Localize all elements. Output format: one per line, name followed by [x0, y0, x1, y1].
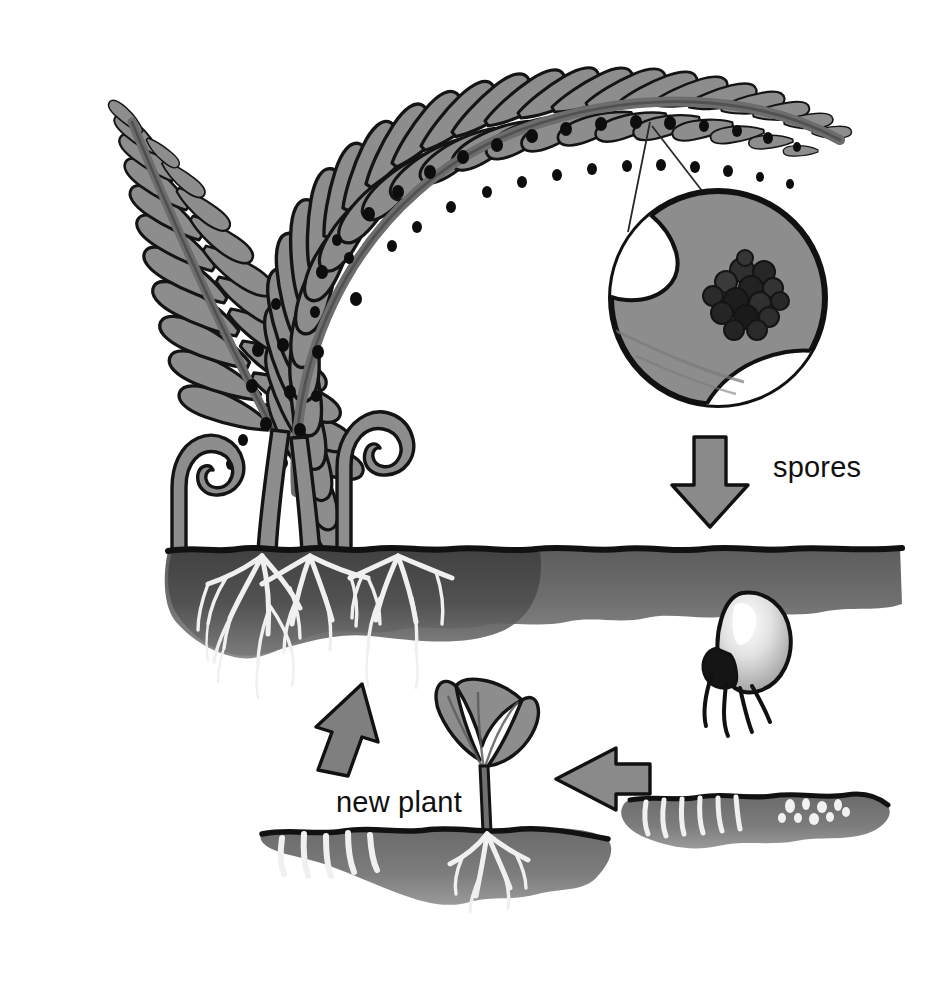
fiddlehead-left	[172, 435, 244, 553]
diagram-canvas: spores	[0, 0, 926, 993]
fiddlehead-right	[337, 412, 414, 551]
fern-life-cycle-diagram: spores	[0, 0, 926, 993]
stipe-left-frond	[258, 430, 289, 552]
gametophyte	[621, 794, 890, 849]
sorus-magnifier	[583, 191, 853, 441]
arrow-spores-down	[672, 437, 748, 527]
soil-surface-line	[168, 548, 902, 551]
new-plant-soil-body	[261, 828, 612, 905]
arrow-new-plant-up	[316, 684, 378, 776]
new-plant-label: new plant	[336, 786, 462, 818]
new-plant-soil	[261, 828, 612, 912]
sporeling-stem	[480, 766, 491, 832]
spores-label: spores	[773, 451, 861, 483]
